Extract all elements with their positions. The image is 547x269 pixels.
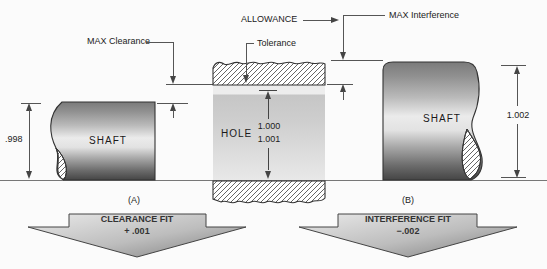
max-clearance-arrow-down-icon bbox=[170, 76, 176, 84]
max-interference-leader-v bbox=[343, 15, 344, 52]
allowance-arrow-line bbox=[303, 20, 331, 21]
upper-jaw-hatch-icon bbox=[213, 62, 325, 85]
panel-b-label: (B) bbox=[402, 195, 414, 205]
max-interference-tail bbox=[343, 91, 344, 100]
max-interference-arrow-down-icon bbox=[340, 52, 346, 60]
hole-dim-line-lower bbox=[268, 148, 269, 170]
right-dim-extension-bottom bbox=[501, 177, 526, 178]
right-shaft-label: SHAFT bbox=[423, 114, 461, 124]
hole-label: HOLE bbox=[221, 129, 252, 139]
tolerance-leader-v bbox=[246, 43, 247, 75]
tolerance-leader-h bbox=[246, 43, 254, 44]
allowance-arrow-right-icon bbox=[331, 17, 339, 23]
clearance-fit-title: CLEARANCE FIT bbox=[101, 214, 174, 224]
max-interference-label: MAX Interference bbox=[389, 10, 459, 20]
max-clearance-tail bbox=[173, 110, 174, 118]
tolerance-arrow-down-icon bbox=[243, 75, 249, 83]
hole-dim-min: 1.000 bbox=[258, 121, 281, 131]
max-clearance-label: MAX Clearance bbox=[87, 36, 150, 46]
allowance-label: ALLOWANCE bbox=[241, 14, 297, 24]
panel-a-label: (A) bbox=[128, 195, 140, 205]
tolerance-label: Tolerance bbox=[257, 38, 296, 48]
interference-fit-value: −.002 bbox=[397, 226, 420, 236]
right-shaft-top-extension-left bbox=[331, 60, 383, 61]
shaft-top-extension-right bbox=[157, 103, 188, 104]
fit-tolerance-diagram: .998 SHAFT MAX Clearance ALLOWANCE MAX I… bbox=[0, 0, 547, 269]
hole-lower-hatched-block bbox=[212, 181, 326, 205]
interference-fit-title: INTERFERENCE FIT bbox=[365, 214, 451, 224]
right-shaft-break-hatch-icon bbox=[462, 129, 480, 179]
left-shaft-dimension: .998 bbox=[5, 134, 23, 144]
left-dim-arrow-down-icon bbox=[26, 171, 32, 179]
left-dim-line bbox=[29, 110, 30, 171]
hole-dim-max: 1.001 bbox=[258, 134, 281, 144]
hole-upper-hatched-block bbox=[212, 55, 326, 86]
right-dim-line-lower bbox=[517, 124, 518, 170]
hole-dim-line-upper bbox=[268, 98, 269, 119]
right-dim-line-upper bbox=[517, 73, 518, 106]
hole-dim-arrow-down-icon bbox=[265, 171, 271, 179]
lower-jaw-hatch-icon bbox=[213, 181, 325, 203]
max-clearance-leader-h bbox=[146, 42, 173, 43]
max-clearance-leader-v bbox=[173, 42, 174, 76]
left-shaft-label: SHAFT bbox=[89, 136, 127, 146]
max-interference-leader-h bbox=[343, 15, 385, 16]
clearance-fit-value: + .001 bbox=[124, 226, 149, 236]
hole-top-extension-left bbox=[166, 84, 213, 85]
right-shaft-dimension: 1.002 bbox=[507, 110, 530, 120]
